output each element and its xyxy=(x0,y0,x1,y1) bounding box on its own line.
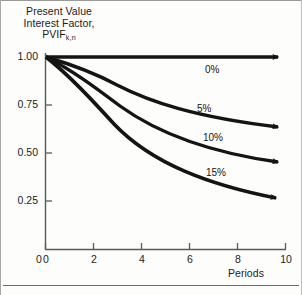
curve-10-percent xyxy=(46,57,278,162)
x-tick-label-6: 6 xyxy=(179,254,201,265)
y-axis-title-line3: PVIF xyxy=(42,28,66,40)
curve-label-10-percent: 10% xyxy=(203,133,223,143)
y-axis-title-subscript: k,n xyxy=(66,34,76,41)
y-tick-label-0-75: 0.75 xyxy=(4,99,38,110)
pvif-chart-figure: Present Value Interest Factor, PVIFk,n 1… xyxy=(0,0,302,295)
x-tick-label-8: 8 xyxy=(227,254,249,265)
y-tick-label-0-25: 0.25 xyxy=(4,195,38,206)
x-axis-ticks xyxy=(46,243,286,250)
y-axis-title-line3-wrap: PVIFk,n xyxy=(17,29,101,42)
y-tick-label-0-50: 0.50 xyxy=(4,147,38,158)
x-axis-title: Periods xyxy=(228,268,264,280)
curve-label-5-percent: 5% xyxy=(197,104,211,114)
x-tick-label-10: 10 xyxy=(275,254,297,265)
chart-plot-area xyxy=(0,0,302,295)
y-axis-title-line1: Present Value xyxy=(17,6,101,18)
curve-label-15-percent: 15% xyxy=(206,168,226,178)
x-tick-label-4: 4 xyxy=(131,254,153,265)
x-tick-label-2: 2 xyxy=(83,254,105,265)
y-axis-title: Present Value Interest Factor, PVIFk,n xyxy=(17,6,101,42)
origin-tick-label: 0 xyxy=(36,254,42,265)
y-axis-ticks xyxy=(46,57,53,201)
curve-5-percent xyxy=(46,57,278,127)
curve-label-0-percent: 0% xyxy=(205,65,219,75)
y-tick-label-1-00: 1.00 xyxy=(4,51,38,62)
